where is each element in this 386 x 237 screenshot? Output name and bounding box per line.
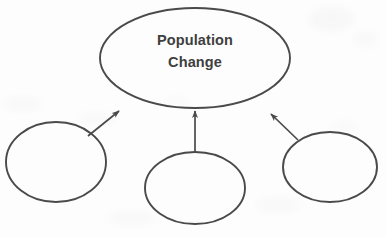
- concept-map-svg: Population Change: [0, 0, 386, 237]
- node-cause-middle-ellipse: [145, 152, 245, 224]
- arrow-right-to-main: [271, 114, 298, 140]
- node-cause-right-ellipse: [283, 132, 377, 202]
- node-population-change[interactable]: Population Change: [100, 8, 290, 108]
- node-cause-right[interactable]: [283, 132, 377, 202]
- node-population-change-label-line2: Change: [168, 54, 222, 70]
- arrow-left-to-main: [88, 111, 119, 136]
- diagram-canvas: Population Change: [0, 0, 386, 237]
- node-population-change-label-line1: Population: [157, 32, 233, 48]
- node-cause-middle[interactable]: [145, 152, 245, 224]
